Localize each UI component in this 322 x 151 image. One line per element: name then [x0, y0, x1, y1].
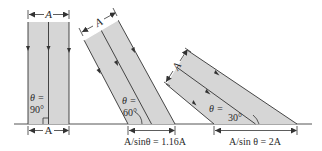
- beam-angle-diagram: A θ = 90° A A θ = 60°: [0, 0, 322, 151]
- beam-60-width-label: A: [92, 15, 105, 29]
- beam-60-theta-value: 60°: [123, 107, 137, 118]
- beam-90-theta-label: θ =: [30, 92, 44, 103]
- beam-30-theta-label: θ =: [209, 103, 223, 114]
- beam-90-theta-value: 90°: [30, 104, 44, 115]
- beam-30: A θ = 30° A/sin θ = 2A: [164, 48, 297, 147]
- beam-90-footprint-label: A: [45, 124, 53, 136]
- ray-arrow-icon: [97, 68, 101, 74]
- beam-90-width-label: A: [44, 8, 52, 20]
- diagram-canvas: A θ = 90° A A θ = 60°: [0, 0, 322, 151]
- beam-60-footprint-label: A/sinθ = 1.16A: [124, 136, 187, 147]
- beam-30-footprint-label: A/sin θ = 2A: [229, 136, 282, 147]
- beam-30-theta-value: 30°: [228, 112, 242, 123]
- beam-60-theta-label: θ =: [122, 95, 136, 106]
- beam-90: A θ = 90° A: [26, 8, 71, 136]
